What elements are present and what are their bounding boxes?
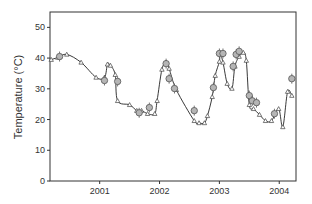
triangle-marker xyxy=(167,66,171,70)
y-tick-label: 0 xyxy=(40,176,45,186)
plot-frame xyxy=(50,12,296,181)
triangle-marker xyxy=(217,59,221,63)
circle-marker xyxy=(289,75,295,81)
circle-marker xyxy=(136,110,142,116)
x-tick-label: 2003 xyxy=(209,186,229,196)
circle-marker xyxy=(163,60,169,66)
triangle-marker xyxy=(281,125,285,129)
circle-marker xyxy=(114,78,120,84)
triangle-marker xyxy=(213,73,217,77)
y-tick-label: 10 xyxy=(35,145,45,155)
triangle-marker xyxy=(276,107,280,111)
circle-marker xyxy=(271,111,277,117)
triangle-marker xyxy=(153,112,157,116)
circle-marker xyxy=(166,75,172,81)
y-tick-label: 40 xyxy=(35,53,45,63)
circle-marker xyxy=(171,85,177,91)
triangle-marker xyxy=(221,60,225,64)
circle-marker xyxy=(101,77,107,83)
circle-marker xyxy=(56,53,62,59)
y-axis: 01020304050 xyxy=(35,22,50,186)
triangle-marker xyxy=(290,93,294,97)
circle-marker xyxy=(210,84,216,90)
x-axis: 2001200220032004 xyxy=(90,181,290,196)
observed-series xyxy=(56,46,295,118)
triangle-marker xyxy=(113,72,117,76)
circle-marker xyxy=(253,99,259,105)
y-tick-label: 50 xyxy=(35,22,45,32)
circle-marker xyxy=(220,50,226,56)
triangle-marker xyxy=(160,67,164,71)
circle-marker xyxy=(191,107,197,113)
triangle-marker xyxy=(115,99,119,103)
triangle-marker xyxy=(225,81,229,85)
y-axis-title: Temperature (°C) xyxy=(12,55,24,139)
triangle-marker xyxy=(205,114,209,118)
y-tick-label: 20 xyxy=(35,115,45,125)
triangle-marker xyxy=(230,86,234,90)
triangle-marker xyxy=(244,58,248,62)
x-tick-label: 2001 xyxy=(90,186,110,196)
triangle-marker xyxy=(210,95,214,99)
temperature-chart: 01020304050 2001200220032004 Temperature… xyxy=(0,0,312,204)
circle-marker xyxy=(236,48,242,54)
triangle-marker xyxy=(197,121,201,125)
y-tick-label: 30 xyxy=(35,84,45,94)
circle-marker xyxy=(146,104,152,110)
triangle-marker xyxy=(155,99,159,103)
circle-marker xyxy=(230,63,236,69)
x-tick-label: 2004 xyxy=(269,186,289,196)
x-tick-label: 2002 xyxy=(150,186,170,196)
